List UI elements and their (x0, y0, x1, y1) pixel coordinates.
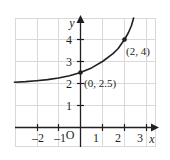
y-tick-label-4: 4 (66, 33, 72, 47)
point-label-2-4: (2, 4) (126, 45, 150, 58)
x-tick-label-1: 1 (93, 131, 99, 145)
y-axis-label: y (68, 16, 75, 30)
x-axis-label: x (148, 132, 155, 146)
y-tick-label-1: 1 (66, 99, 72, 113)
graph-svg: 4 3 2 1 –2 –1 1 2 3 O y x (0, 2.5) (2, 4… (0, 0, 170, 160)
y-tick-label-3: 3 (66, 55, 72, 69)
point-label-0-2-5: (0, 2.5) (84, 77, 116, 90)
origin-label: O (66, 128, 75, 142)
point-marker-0-2-5 (78, 70, 83, 75)
x-tick-label-3: 3 (137, 131, 143, 145)
graph-figure: 4 3 2 1 –2 –1 1 2 3 O y x (0, 2.5) (2, 4… (0, 0, 170, 160)
point-marker-2-4 (122, 37, 127, 42)
y-tick-label-2: 2 (66, 77, 72, 91)
x-tick-label-minus-1: –1 (53, 131, 66, 145)
x-tick-label-minus-2: –2 (31, 131, 44, 145)
x-tick-label-2: 2 (115, 131, 121, 145)
